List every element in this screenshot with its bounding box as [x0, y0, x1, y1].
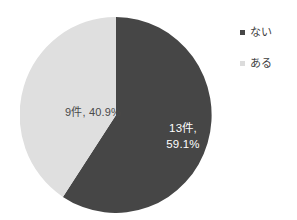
legend-item-aru[interactable]: ある: [240, 55, 296, 71]
pie-label-aru: 9件, 40.9%: [53, 105, 133, 120]
pie-label-nai: 13件, 59.1%: [151, 121, 215, 152]
pie-label-nai-count: 13件,: [151, 121, 215, 137]
legend-label-aru: ある: [250, 58, 273, 69]
legend-marker-icon: [240, 61, 245, 66]
pie-label-nai-percent: 59.1%: [151, 137, 215, 153]
legend-item-nai[interactable]: ない: [240, 24, 296, 40]
pie-chart: 13件, 59.1% 9件, 40.9% ない ある: [0, 0, 297, 220]
pie-label-aru-text: 9件, 40.9%: [53, 105, 133, 120]
pie-graphic: 13件, 59.1% 9件, 40.9%: [20, 17, 212, 213]
chart-legend: ない ある: [240, 24, 296, 86]
legend-marker-icon: [240, 30, 245, 35]
legend-label-nai: ない: [250, 27, 273, 38]
